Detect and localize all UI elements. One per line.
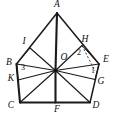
- vertex-label-D: D: [93, 101, 100, 111]
- pentagon-outline: [17, 13, 100, 103]
- vertex-label-K: K: [8, 74, 14, 84]
- vertex-label-F: F: [54, 105, 60, 115]
- vertex-label-I: I: [22, 37, 25, 47]
- center-point-dot: [53, 68, 57, 72]
- vertex-label-C: C: [8, 101, 14, 111]
- center-spokes-to-vertices: [17, 13, 100, 103]
- chord-H-E: [82, 46, 99, 65]
- vertex-label-O: O: [61, 53, 68, 63]
- vertex-label-E: E: [103, 55, 109, 65]
- inner-chords: [17, 46, 100, 81]
- vertex-label-H: H: [82, 35, 89, 45]
- segment-OA: [56, 13, 58, 71]
- angle-label-3: 3: [21, 64, 25, 72]
- angle-label-2: 2: [77, 49, 81, 57]
- vertex-label-A: A: [54, 0, 60, 10]
- chord-I-B: [17, 48, 31, 64]
- vertex-label-B: B: [6, 58, 12, 68]
- segment-OD: [56, 71, 91, 103]
- segment-OG: [56, 71, 96, 80]
- angle-label-1: 1: [91, 67, 95, 75]
- vertex-label-G: G: [98, 77, 105, 87]
- geometry-figure: A B C D E F G H I K O 1 2 3: [0, 0, 117, 125]
